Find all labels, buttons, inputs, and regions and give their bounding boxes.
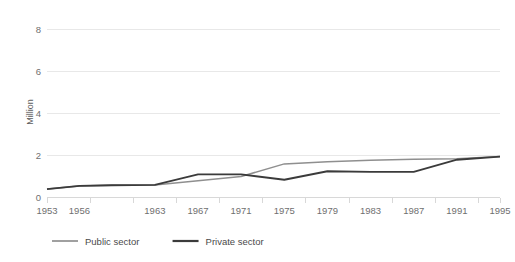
y-axis-tick-labels: 02468 bbox=[36, 24, 41, 203]
x-tick-label-1953: 1953 bbox=[36, 205, 57, 216]
x-tick-label-1967: 1967 bbox=[187, 205, 208, 216]
x-tick-label-1983: 1983 bbox=[360, 205, 381, 216]
x-tick-label-1971: 1971 bbox=[231, 205, 252, 216]
y-tick-label-6: 6 bbox=[36, 66, 41, 77]
x-tick-label-1979: 1979 bbox=[317, 205, 338, 216]
x-tick-label-1975: 1975 bbox=[274, 205, 295, 216]
y-tick-label-0: 0 bbox=[36, 192, 41, 203]
gridlines bbox=[47, 30, 500, 198]
chart-canvas: 02468 Million 19531956196319671971197519… bbox=[0, 0, 515, 262]
x-tick-label-1991: 1991 bbox=[446, 205, 467, 216]
legend-label-public-sector[interactable]: Public sector bbox=[85, 236, 139, 247]
y-tick-label-2: 2 bbox=[36, 150, 41, 161]
x-tick-label-1963: 1963 bbox=[144, 205, 165, 216]
x-tick-label-1956: 1956 bbox=[69, 205, 90, 216]
legend-label-private-sector[interactable]: Private sector bbox=[206, 236, 264, 247]
y-axis-title: Million bbox=[25, 99, 35, 125]
x-tick-label-1995: 1995 bbox=[489, 205, 510, 216]
line-chart: 02468 Million 19531956196319671971197519… bbox=[0, 0, 515, 262]
series-line-public-sector bbox=[47, 157, 500, 190]
x-axis-tick-marks bbox=[47, 198, 500, 203]
y-tick-label-8: 8 bbox=[36, 24, 41, 35]
chart-legend: Public sectorPrivate sector bbox=[52, 236, 264, 247]
y-tick-label-4: 4 bbox=[36, 108, 41, 119]
series-line-private-sector bbox=[47, 157, 500, 190]
x-tick-label-1987: 1987 bbox=[403, 205, 424, 216]
data-series-group bbox=[47, 157, 500, 190]
x-axis-tick-labels: 1953195619631967197119751979198319871991… bbox=[36, 205, 510, 216]
